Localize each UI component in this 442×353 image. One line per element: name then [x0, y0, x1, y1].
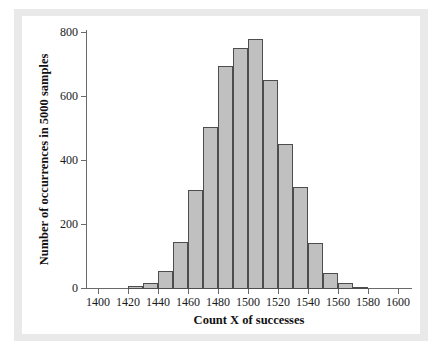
x-axis-tick-mark — [278, 289, 279, 294]
histogram-bar — [158, 271, 173, 289]
x-axis-tick-mark — [308, 289, 309, 294]
histogram-bar — [233, 48, 248, 289]
histogram-figure: 0200400600800 14001420144014601480150015… — [0, 0, 442, 353]
x-axis-tick-mark — [218, 289, 219, 294]
histogram-bar — [128, 286, 143, 289]
x-axis-tick-mark — [398, 289, 399, 294]
histogram-bar — [203, 127, 218, 289]
histogram-bar — [143, 283, 158, 289]
x-axis-tick-mark — [188, 289, 189, 294]
x-axis-tick-mark — [248, 289, 249, 294]
x-axis-title: Count X of successes — [86, 313, 412, 328]
histogram-bar — [278, 144, 293, 289]
histogram-bar — [353, 287, 368, 289]
histogram-bar — [263, 80, 278, 289]
histogram-bar — [218, 66, 233, 289]
x-axis-tick-mark — [338, 289, 339, 294]
histogram-bar — [173, 242, 188, 289]
x-axis-tick-label: 1600 — [378, 296, 418, 308]
histogram-bars — [86, 28, 412, 289]
histogram-bar — [308, 243, 323, 289]
x-axis-tick-mark — [368, 289, 369, 294]
x-axis-tick-mark — [98, 289, 99, 294]
histogram-bar — [188, 190, 203, 289]
histogram-bar — [323, 273, 338, 289]
x-axis-tick-mark — [128, 289, 129, 294]
y-axis-title: Number of occurrences in 5000 samples — [37, 30, 52, 290]
histogram-bar — [338, 283, 353, 289]
x-axis-tick-mark — [158, 289, 159, 294]
histogram-bar — [293, 187, 308, 289]
histogram-bar — [248, 39, 263, 289]
